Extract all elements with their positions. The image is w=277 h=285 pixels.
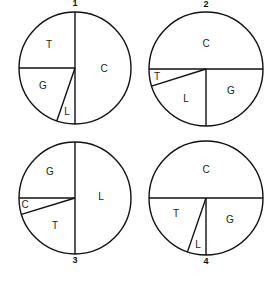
slice-label-c: C: [202, 38, 209, 49]
slice-label-l: L: [64, 106, 70, 117]
slice-label-c: C: [21, 199, 28, 210]
chart-number-label: 3: [72, 255, 77, 265]
chart-number-label: 2: [203, 0, 208, 9]
slice-label-l: L: [183, 93, 189, 104]
pie-charts-figure: CLGT1 CGLT2 LTCG3 CGLT4: [0, 0, 277, 285]
slice-label-l: L: [98, 191, 104, 202]
slice-label-c: C: [202, 164, 209, 175]
pie-chart-4: CGLT4: [149, 141, 263, 266]
chart-number-label: 1: [72, 0, 77, 8]
slice-label-g: G: [39, 80, 47, 91]
slice-label-g: G: [226, 214, 234, 225]
pie-chart-3: LTCG3: [19, 142, 131, 265]
slice-label-t: T: [154, 71, 160, 82]
pie-chart-2: CGLT2: [149, 0, 263, 126]
slice-label-l: L: [195, 239, 201, 250]
slice-label-g: G: [227, 85, 235, 96]
chart-number-label: 4: [203, 256, 208, 266]
slice-label-c: C: [100, 63, 107, 74]
slice-label-t: T: [52, 220, 58, 231]
slice-label-g: G: [46, 166, 54, 177]
pie-chart-1: CLGT1: [19, 0, 131, 124]
slice-label-t: T: [173, 208, 179, 219]
slice-label-t: T: [46, 39, 52, 50]
